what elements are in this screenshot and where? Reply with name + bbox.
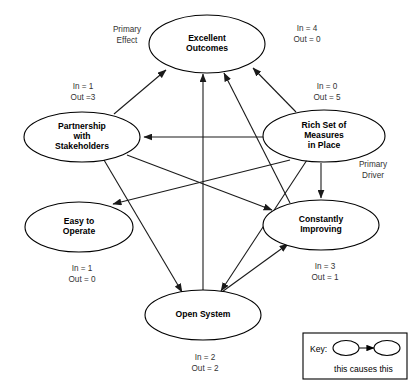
- edge-partnership-to-constantly-improving: [127, 155, 272, 210]
- io-label-constantly-improving: In = 3Out = 1: [311, 262, 339, 282]
- key-label: Key:: [310, 344, 327, 354]
- causal-loop-diagram: ExcellentOutcomesPartnershipwithStakehol…: [0, 0, 417, 390]
- io-label-partnership-with-stakeholders: In = 1Out =3: [71, 82, 96, 102]
- diagram-canvas: ExcellentOutcomesPartnershipwithStakehol…: [0, 0, 417, 390]
- node-partnership-with-stakeholders[interactable]: PartnershipwithStakeholders: [24, 112, 140, 162]
- io-label-rich-set-of-measures-in-place: In = 0Out = 5: [313, 82, 341, 102]
- key-caption: this causes this: [334, 364, 393, 374]
- edge-partnership-to-excellent-outcomes: [114, 70, 166, 114]
- key-cause-ellipse: [333, 341, 359, 356]
- node-label-open-system: Open System: [176, 309, 231, 319]
- node-constantly-improving[interactable]: ConstantlyImproving: [263, 200, 379, 250]
- node-label-rich-set-of-measures-in-place: Rich Set ofMeasuresin Place: [302, 120, 347, 150]
- node-rich-set-of-measures-in-place[interactable]: Rich Set ofMeasuresin Place: [263, 110, 385, 162]
- node-label-easy-to-operate: Easy toOperate: [63, 216, 96, 236]
- nodes-layer: ExcellentOutcomesPartnershipwithStakehol…: [24, 15, 385, 340]
- io-label-excellent-outcomes: In = 4Out = 0: [293, 24, 321, 44]
- key-effect-ellipse: [374, 341, 400, 356]
- io-label-open-system: In = 2Out = 2: [191, 353, 219, 373]
- node-label-constantly-improving: ConstantlyImproving: [299, 214, 344, 234]
- io-label-easy-to-operate: In = 1Out = 0: [68, 264, 96, 284]
- edges-layer: [104, 68, 321, 297]
- node-easy-to-operate[interactable]: Easy toOperate: [25, 202, 133, 252]
- edge-rich-set-to-excellent-outcomes: [253, 68, 296, 112]
- edge-rich-set-to-easy-to-operate: [113, 160, 290, 204]
- node-excellent-outcomes[interactable]: ExcellentOutcomes: [149, 15, 265, 73]
- node-open-system[interactable]: Open System: [145, 290, 261, 340]
- annotation-primary-driver: PrimaryDriver: [359, 160, 388, 180]
- key-legend: Key: this causes this: [303, 333, 407, 379]
- annotation-primary-effect: PrimaryEffect: [113, 25, 142, 45]
- node-label-excellent-outcomes: ExcellentOutcomes: [186, 33, 228, 53]
- edge-open-system-to-constantly-improving: [215, 244, 288, 297]
